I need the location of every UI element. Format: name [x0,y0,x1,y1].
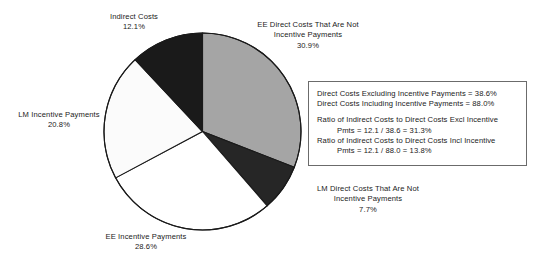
slice-label-lm-incentive-payments-value: 20.8% [4,120,114,130]
slice-label-ee-incentive-payments: EE Incentive Payments 28.6% [76,232,216,253]
slice-label-ee-direct-costs-text-line1: EE Direct Costs That Are Not [228,20,388,30]
slice-label-lm-direct-costs-text-line1: LM Direct Costs That Are Not [293,184,443,194]
slice-label-indirect-costs-value: 12.1% [79,22,189,32]
pie-chart-svg [103,32,302,231]
annotation-line-ratio-incl-incentive-value: Pmts = 12.1 / 88.0 = 13.8% [317,146,526,156]
slice-label-lm-direct-costs: LM Direct Costs That Are Not Incentive P… [293,184,443,215]
slice-label-lm-direct-costs-text-line2: Incentive Payments [293,194,443,204]
slice-label-ee-direct-costs-text-line2: Incentive Payments [228,30,388,40]
pie-chart-figure: Indirect Costs 12.1% EE Direct Costs Tha… [0,0,535,267]
slice-label-indirect-costs: Indirect Costs 12.1% [79,12,189,33]
slice-label-ee-incentive-payments-text: EE Incentive Payments [76,232,216,242]
slice-label-ee-direct-costs-value: 30.9% [228,41,388,51]
slice-label-lm-incentive-payments-text: LM Incentive Payments [4,110,114,120]
annotation-line-direct-costs-excluding: Direct Costs Excluding Incentive Payment… [317,89,526,99]
annotation-box: Direct Costs Excluding Incentive Payment… [308,81,527,166]
annotation-line-ratio-excl-incentive: Ratio of Indirect Costs to Direct Costs … [317,115,526,125]
annotation-line-direct-costs-including: Direct Costs Including Incentive Payment… [317,99,526,109]
slice-label-indirect-costs-text: Indirect Costs [79,12,189,22]
slice-label-lm-direct-costs-value: 7.7% [293,205,443,215]
pie-chart [103,32,302,231]
annotation-line-ratio-excl-incentive-value: Pmts = 12.1 / 38.6 = 31.3% [317,126,526,136]
slice-label-ee-direct-costs: EE Direct Costs That Are Not Incentive P… [228,20,388,51]
slice-label-ee-incentive-payments-value: 28.6% [76,242,216,252]
annotation-line-ratio-incl-incentive: Ratio of Indirect Costs to Direct Costs … [317,136,526,146]
slice-label-lm-incentive-payments: LM Incentive Payments 20.8% [4,110,114,131]
